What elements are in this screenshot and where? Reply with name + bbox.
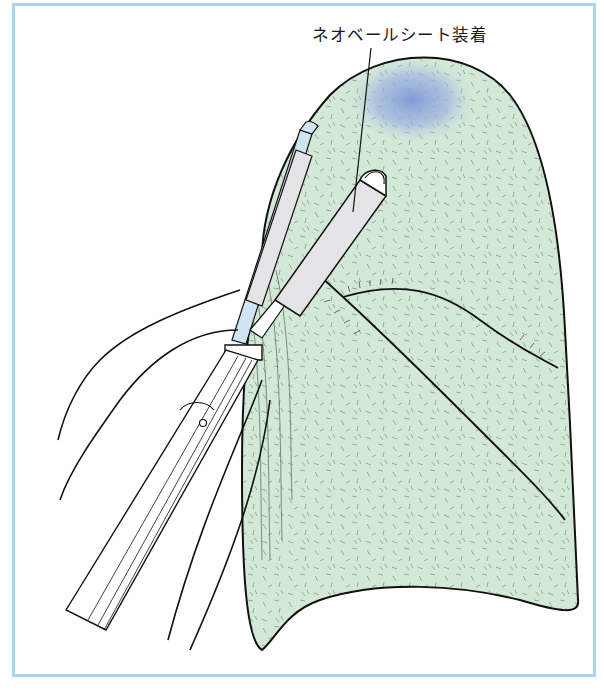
annotation-label: ネオベールシート装着	[312, 22, 487, 46]
lung-surgery-illustration	[0, 0, 604, 691]
thoracoscopic-port-shaft	[66, 345, 262, 630]
lung-lobe	[230, 40, 590, 660]
